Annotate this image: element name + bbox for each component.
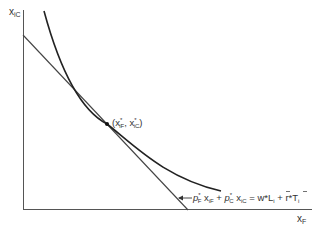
y-axis-label: xiC: [9, 6, 21, 18]
tangency-point: [105, 122, 109, 126]
indifference-curve: [44, 11, 221, 191]
tangency-point-label: (x*iF, x*iC): [112, 117, 142, 129]
economics-diagram: xiC xF (x*iF, x*iC) p*F xiF + p*C xiC = …: [0, 0, 312, 232]
budget-equation: p*F xiF + p*C xiC = w*Li + r*Ti: [192, 192, 299, 204]
x-axis-label: xF: [297, 213, 306, 225]
